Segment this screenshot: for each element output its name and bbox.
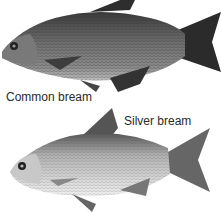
common-bream-image [0,0,221,92]
silver-bream-label: Silver bream [124,114,191,128]
fish-comparison-figure: Common bream Silver [0,0,221,212]
common-bream-label: Common bream [6,90,92,104]
